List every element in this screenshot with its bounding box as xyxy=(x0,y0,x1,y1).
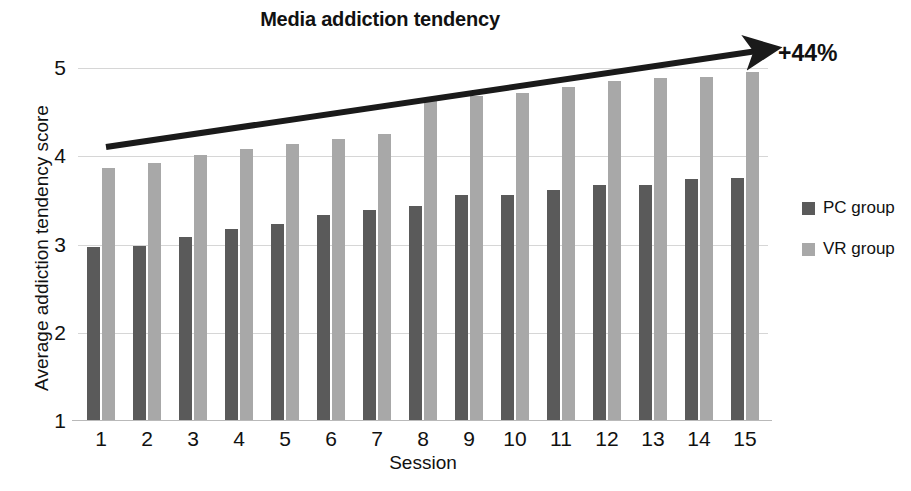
x-axis-tick: 6 xyxy=(306,428,356,449)
y-axis-tick: 2 xyxy=(26,322,66,343)
bar[interactable] xyxy=(639,185,652,422)
bar[interactable] xyxy=(685,179,698,421)
y-axis-tick: 1 xyxy=(26,410,66,431)
legend-item[interactable]: PC group xyxy=(802,198,907,218)
x-axis-tick: 4 xyxy=(214,428,264,449)
y-axis-tick: 5 xyxy=(26,57,66,78)
legend-swatch-icon xyxy=(802,243,815,256)
bar[interactable] xyxy=(654,78,667,421)
chart-title: Media addiction tendency xyxy=(0,8,760,31)
bar[interactable] xyxy=(746,72,759,421)
x-axis-tick: 9 xyxy=(444,428,494,449)
chart-container: Media addiction tendency Average addicti… xyxy=(0,0,911,491)
bar[interactable] xyxy=(179,237,192,421)
y-axis-tick: 4 xyxy=(26,145,66,166)
bar[interactable] xyxy=(455,195,468,421)
x-axis-tick: 2 xyxy=(122,428,172,449)
plot-area xyxy=(78,68,768,421)
bar[interactable] xyxy=(593,185,606,422)
bar[interactable] xyxy=(87,247,100,421)
x-axis-tick: 3 xyxy=(168,428,218,449)
bar[interactable] xyxy=(608,81,621,421)
legend-label: VR group xyxy=(823,239,895,259)
bar[interactable] xyxy=(102,168,115,421)
bar[interactable] xyxy=(562,87,575,421)
legend-label: PC group xyxy=(823,198,895,218)
bar[interactable] xyxy=(240,149,253,421)
bar[interactable] xyxy=(271,224,284,421)
bar[interactable] xyxy=(516,93,529,421)
bar[interactable] xyxy=(700,77,713,421)
x-axis-tick: 13 xyxy=(628,428,678,449)
chart-legend: PC groupVR group xyxy=(802,198,907,280)
x-axis-tick: 15 xyxy=(720,428,770,449)
x-axis-tick: 12 xyxy=(582,428,632,449)
bar[interactable] xyxy=(409,206,422,421)
bar[interactable] xyxy=(194,155,207,422)
x-axis-tick: 7 xyxy=(352,428,402,449)
legend-swatch-icon xyxy=(802,202,815,215)
bar[interactable] xyxy=(501,195,514,421)
bar[interactable] xyxy=(731,178,744,421)
bar[interactable] xyxy=(363,210,376,421)
bar[interactable] xyxy=(470,96,483,421)
x-axis-tick: 14 xyxy=(674,428,724,449)
x-axis-tick: 1 xyxy=(76,428,126,449)
x-axis-tick: 10 xyxy=(490,428,540,449)
trend-percentage-label: +44% xyxy=(778,40,837,67)
bar[interactable] xyxy=(225,229,238,421)
x-axis-tick: 8 xyxy=(398,428,448,449)
bar[interactable] xyxy=(332,139,345,421)
bar[interactable] xyxy=(133,246,146,421)
x-axis-title: Session xyxy=(78,452,768,474)
x-axis-tick: 5 xyxy=(260,428,310,449)
bar[interactable] xyxy=(424,100,437,421)
bar[interactable] xyxy=(378,134,391,421)
legend-item[interactable]: VR group xyxy=(802,239,907,259)
gridline xyxy=(78,68,768,69)
bar[interactable] xyxy=(148,163,161,421)
y-axis-tick: 3 xyxy=(26,234,66,255)
bar[interactable] xyxy=(317,215,330,422)
bar[interactable] xyxy=(286,144,299,421)
bar[interactable] xyxy=(547,190,560,421)
x-axis-line xyxy=(72,420,772,421)
x-axis-tick: 11 xyxy=(536,428,586,449)
